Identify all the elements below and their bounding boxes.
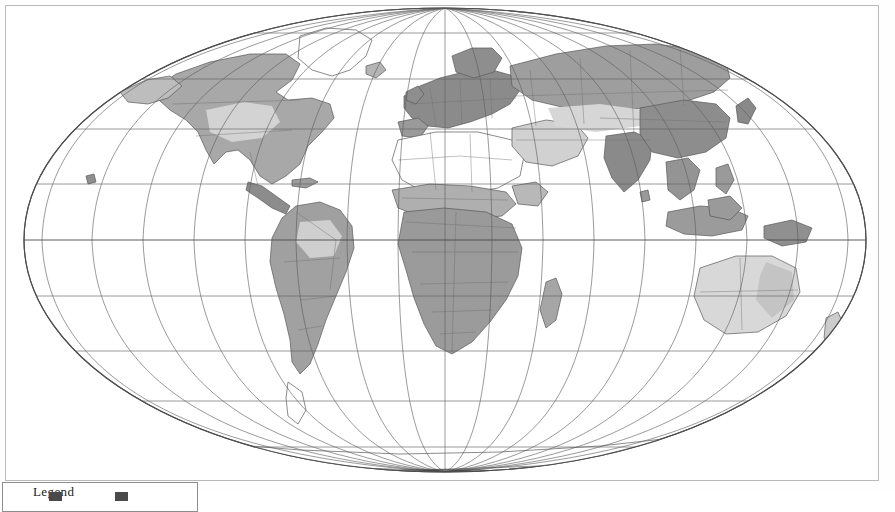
- land-north-africa: [392, 132, 524, 194]
- legend-swatch-2: [115, 492, 128, 501]
- legend-title: Legend: [3, 483, 197, 500]
- legend-panel[interactable]: Legend: [2, 482, 198, 512]
- legend-swatch-1: [49, 492, 62, 501]
- land-hawaii: [86, 174, 96, 184]
